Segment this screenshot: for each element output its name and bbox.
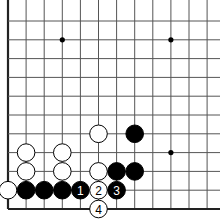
white-stone-move-2: 2	[90, 181, 108, 199]
black-stone	[108, 163, 126, 181]
star-point-icon	[168, 37, 173, 42]
go-board-diagram: 1234	[0, 0, 220, 220]
black-stone	[35, 181, 53, 199]
board-svg: 1234	[0, 0, 220, 220]
move-number-label: 3	[113, 184, 120, 198]
black-stone	[54, 181, 72, 199]
white-stone	[90, 163, 108, 181]
black-stone	[17, 181, 35, 199]
black-stone-move-1: 1	[72, 181, 90, 199]
white-stone-move-4: 4	[90, 200, 108, 218]
white-stone	[17, 144, 35, 162]
black-stone	[126, 125, 144, 143]
star-point-icon	[168, 150, 173, 155]
white-stone	[54, 144, 72, 162]
star-point-icon	[60, 37, 65, 42]
move-number-label: 4	[95, 203, 102, 217]
move-number-label: 2	[95, 184, 102, 198]
black-stone	[126, 163, 144, 181]
move-number-label: 1	[77, 184, 84, 198]
white-stone	[90, 125, 108, 143]
white-stone	[17, 163, 35, 181]
white-stone	[0, 181, 17, 199]
white-stone	[54, 163, 72, 181]
black-stone-move-3: 3	[108, 181, 126, 199]
